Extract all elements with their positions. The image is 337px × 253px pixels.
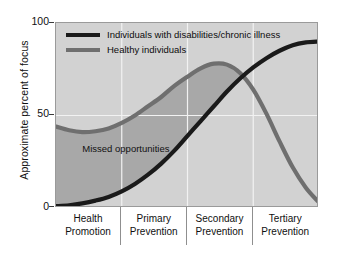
x-axis-label-line1: Secondary	[187, 213, 253, 226]
y-tick-mark-50	[49, 114, 54, 115]
y-tick-mark-100	[49, 22, 54, 23]
y-tick-label-50: 50	[19, 107, 49, 119]
y-tick-mark-0	[49, 206, 54, 207]
x-axis-label-line2: Prevention	[252, 226, 318, 239]
x-axis-label-line2: Prevention	[121, 226, 187, 239]
x-axis-label-line1: Health	[55, 213, 121, 226]
chart-figure: Approximate percent of focus 100 50 0	[0, 0, 337, 253]
legend-label-disabilities: Individuals with disabilities/chronic il…	[107, 30, 280, 40]
x-axis-label-tertiary-prevention: Tertiary Prevention	[252, 213, 318, 238]
legend-item-disabilities: Individuals with disabilities/chronic il…	[66, 28, 316, 42]
x-axis-label-health-promotion: Health Promotion	[55, 213, 121, 238]
y-axis-ticks: 100 50 0	[17, 0, 49, 253]
y-tick-label-0: 0	[19, 200, 49, 212]
plot-area: Individuals with disabilities/chronic il…	[55, 22, 318, 207]
missed-opportunities-shading	[56, 64, 243, 206]
y-tick-label-100: 100	[19, 15, 49, 27]
chart-legend: Individuals with disabilities/chronic il…	[66, 28, 316, 58]
annotation-missed-opportunities: Missed opportunities	[82, 143, 169, 154]
x-axis: Health Promotion Primary Prevention Seco…	[55, 207, 318, 253]
x-axis-label-secondary-prevention: Secondary Prevention	[187, 213, 253, 238]
x-axis-label-line1: Primary	[121, 213, 187, 226]
x-axis-label-primary-prevention: Primary Prevention	[121, 213, 187, 238]
legend-label-healthy: Healthy individuals	[107, 45, 186, 55]
x-axis-label-line1: Tertiary	[252, 213, 318, 226]
x-axis-label-line2: Prevention	[187, 226, 253, 239]
x-axis-label-line2: Promotion	[55, 226, 121, 239]
legend-item-healthy: Healthy individuals	[66, 43, 316, 57]
legend-swatch-disabilities	[66, 33, 100, 37]
legend-swatch-healthy	[66, 48, 100, 52]
